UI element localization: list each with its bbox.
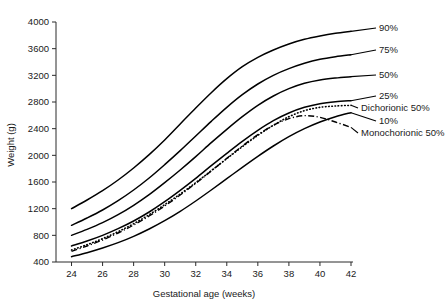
y-tick-label: 2800 [28, 96, 49, 107]
legend-label-75: 75% [379, 44, 399, 55]
legend-leader-monochorionic-50 [351, 127, 358, 133]
series-line-25 [72, 101, 351, 246]
legend-label-10: 10% [379, 115, 399, 126]
legend-leader-90 [351, 28, 376, 31]
y-axis-title: Weight (g) [5, 123, 16, 167]
y-tick-label: 3200 [28, 70, 49, 81]
x-tick-label: 40 [315, 268, 326, 279]
series-line-75 [72, 55, 351, 226]
legend-label-dichorionic-50: Dichorionic 50% [361, 102, 430, 113]
x-tick-label: 42 [346, 268, 357, 279]
y-tick-label: 800 [33, 230, 49, 241]
series-curves [72, 31, 351, 256]
x-tick-label: 38 [284, 268, 295, 279]
legend-label-monochorionic-50: Monochorionic 50% [361, 127, 445, 138]
y-tick-label: 1200 [28, 203, 49, 214]
legend-label-25: 25% [379, 90, 399, 101]
chart-canvas: 40080012001600200024002800320036004000 2… [0, 0, 446, 305]
legend-leader-dichorionic-50 [351, 105, 358, 108]
x-axis-title: Gestational age (weeks) [153, 288, 255, 299]
x-tick-label: 36 [253, 268, 264, 279]
y-tick-label: 2000 [28, 150, 49, 161]
y-tick-label: 1600 [28, 176, 49, 187]
growth-chart: 40080012001600200024002800320036004000 2… [0, 0, 446, 305]
legend-leader-10 [351, 113, 376, 121]
x-tick-label: 24 [66, 268, 77, 279]
series-line-50 [72, 77, 351, 236]
y-tick-label: 400 [33, 256, 49, 267]
x-tick-labels: 24262830323436384042 [66, 268, 356, 279]
x-tick-label: 26 [97, 268, 108, 279]
x-tick-label: 30 [159, 268, 170, 279]
legend-leader-50 [351, 75, 376, 77]
x-tick-label: 34 [222, 268, 233, 279]
legend-leader-25 [351, 96, 376, 101]
axes-group [52, 22, 353, 266]
legend-leader-lines [351, 28, 376, 133]
y-tick-label: 3600 [28, 43, 49, 54]
x-tick-label: 32 [190, 268, 201, 279]
x-tick-label: 28 [128, 268, 139, 279]
y-tick-label: 2400 [28, 123, 49, 134]
series-line-90 [72, 31, 351, 208]
y-tick-label: 4000 [28, 16, 49, 27]
legend-label-50: 50% [379, 69, 399, 80]
y-tick-labels: 40080012001600200024002800320036004000 [28, 16, 49, 267]
legend-label-90: 90% [379, 22, 399, 33]
legend-leader-75 [351, 50, 376, 55]
